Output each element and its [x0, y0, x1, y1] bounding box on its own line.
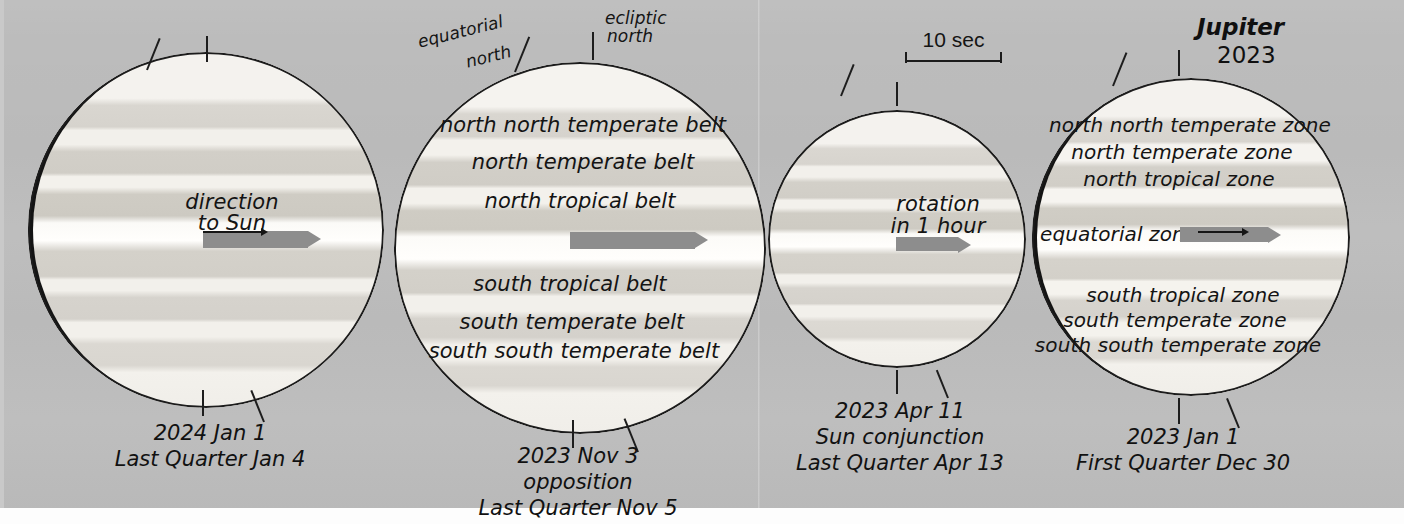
south-tick-disk1: [202, 390, 204, 416]
zone-label-stz: south temperate zone: [1063, 308, 1287, 332]
ecliptic-north-tick-disk3: [896, 82, 898, 106]
equatorial-zone-thin-arrow: [1198, 231, 1242, 233]
caption-disk-2024-jan-1: 2024 Jan 1 Last Quarter Jan 4: [115, 420, 306, 472]
equatorial-zone-arrow: [1180, 227, 1268, 242]
scale-bar-cap-left: [905, 52, 907, 63]
caption-line: Sun conjunction: [796, 424, 1004, 450]
belt-label-strb: south tropical belt: [473, 272, 666, 296]
diagram-canvas: direction to Sun 2024 Jan 1 Last Quarter…: [0, 0, 1404, 524]
caption-line: 2023 Apr 11: [796, 398, 1004, 424]
caption-line: Last Quarter Apr 13: [796, 450, 1004, 476]
ecliptic-north-label-line1: ecliptic: [605, 8, 667, 28]
zone-label-ez: equatorial zone: [1040, 222, 1197, 246]
zone-label-nntz: north north temperate zone: [1049, 113, 1331, 137]
rotation-label-line1: rotation: [896, 192, 980, 216]
scale-bar-cap-right: [1000, 52, 1002, 63]
rotation-label-line2: in 1 hour: [891, 214, 986, 238]
south-tick-disk4: [1178, 398, 1180, 424]
ecliptic-north-label-line2: north: [607, 26, 653, 46]
caption-disk-2023-apr-11: 2023 Apr 11 Sun conjunction Last Quarter…: [796, 398, 1004, 476]
scale-bar-line: [905, 60, 1002, 62]
caption-disk-2023-jan-1: 2023 Jan 1 First Quarter Dec 30: [1076, 424, 1290, 476]
belt-label-nntb: north north temperate belt: [440, 113, 726, 137]
title-year: 2023: [1217, 42, 1284, 68]
belt-label-stb: south temperate belt: [460, 310, 685, 334]
zone-label-ntrz: north tropical zone: [1083, 167, 1274, 191]
caption-line: Last Quarter Nov 5: [478, 495, 677, 521]
ecliptic-north-tick-disk2: [592, 32, 594, 60]
page-left-edge: [0, 0, 4, 508]
rotation-arrow-disk3: [896, 237, 958, 251]
caption-disk-2023-nov-3: 2023 Nov 3 opposition Last Quarter Nov 5: [478, 443, 677, 521]
scale-bar: 10 sec: [905, 42, 1002, 66]
ecliptic-north-tick-disk1: [206, 36, 208, 62]
belt-label-sstb: south south temperate belt: [429, 339, 720, 363]
caption-line: opposition: [478, 469, 677, 495]
zone-label-strz: south tropical zone: [1086, 283, 1280, 307]
scale-bar-label: 10 sec: [923, 28, 985, 52]
caption-line: 2023 Nov 3: [478, 443, 677, 469]
direction-to-sun-thin-arrow: [203, 231, 261, 233]
caption-line: Last Quarter Jan 4: [115, 446, 306, 472]
caption-line: First Quarter Dec 30: [1076, 450, 1290, 476]
direction-to-sun-arrow: [203, 231, 308, 248]
belt-label-ntrb: north tropical belt: [484, 189, 675, 213]
caption-line: 2023 Jan 1: [1076, 424, 1290, 450]
zone-label-sstz: south south temperate zone: [1035, 333, 1321, 357]
title-planet-name: Jupiter: [1197, 14, 1284, 40]
south-tick-disk3: [896, 370, 898, 394]
zone-label-ntz: north temperate zone: [1071, 140, 1292, 164]
caption-line: 2024 Jan 1: [115, 420, 306, 446]
page-bottom-edge: [0, 508, 1404, 524]
belt-label-ntb: north temperate belt: [472, 150, 695, 174]
ecliptic-north-tick-disk4: [1178, 50, 1180, 76]
chart-title: Jupiter 2023: [1197, 14, 1284, 68]
equatorial-arrow-disk2: [570, 232, 695, 249]
